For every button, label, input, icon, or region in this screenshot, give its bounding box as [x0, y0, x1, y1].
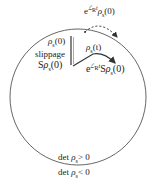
label-det-negative: det ρs< 0: [58, 167, 90, 177]
boundary-circle: [10, 29, 146, 165]
label-det-positive: det ρs> 0: [58, 152, 90, 162]
dashed-evolution-curve: [85, 26, 117, 37]
label-slippage: slippage: [35, 49, 65, 59]
label-exp-S-rho-s0: eℒRtSρs(0): [86, 64, 125, 74]
start-point: [84, 31, 86, 33]
label-exp-rho-s0: eℒRtρs(0): [84, 6, 115, 16]
label-rho-s0: ρs(0): [48, 36, 65, 46]
label-S-rho-s0: Sρs(0): [38, 60, 62, 70]
label-rho-s-t: ρs(t): [86, 42, 101, 52]
